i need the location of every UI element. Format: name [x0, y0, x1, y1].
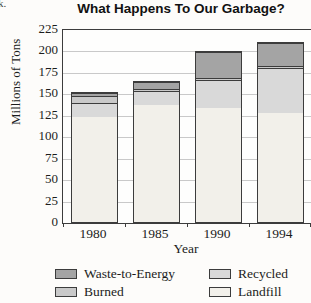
- bar-1994-segment-waste-to-energy: [258, 43, 303, 66]
- legend-item-landfill: Landfill: [209, 284, 288, 299]
- y-tick-label-50: 50: [18, 172, 58, 186]
- bar-1994-segment-landfill: [258, 113, 303, 222]
- y-tick-label-150: 150: [18, 86, 58, 100]
- legend-swatch-icon: [55, 269, 77, 279]
- bar-1994: [257, 42, 304, 223]
- legend-label: Burned: [84, 284, 124, 300]
- bar-1985: [133, 81, 180, 223]
- legend-item-recycled: Recycled: [209, 266, 288, 281]
- bar-1980: [71, 92, 118, 223]
- page-corner-artifact: k.: [0, 0, 6, 9]
- bar-1980-segment-recycled: [72, 103, 117, 117]
- y-tick-label-100: 100: [18, 129, 58, 143]
- y-tick-label-125: 125: [18, 108, 58, 122]
- x-tick-label-1985: 1985: [125, 226, 185, 242]
- y-tick-label-175: 175: [18, 65, 58, 79]
- legend-label: Waste-to-Energy: [84, 266, 175, 282]
- legend-item-waste-to-energy: Waste-to-Energy: [55, 266, 175, 281]
- legend-column: RecycledLandfill: [209, 266, 288, 299]
- bar-1994-segment-recycled: [258, 68, 303, 113]
- x-axis-tick: [310, 223, 311, 227]
- x-tick-label-1980: 1980: [63, 226, 123, 242]
- x-tick-label-1994: 1994: [249, 226, 309, 242]
- legend-label: Recycled: [238, 266, 288, 282]
- bar-1980-segment-burned: [72, 96, 117, 104]
- bar-1990-segment-recycled: [196, 80, 241, 108]
- y-tick-label-0: 0: [18, 215, 58, 229]
- bar-1985-segment-landfill: [134, 105, 179, 222]
- legend-item-burned: Burned: [55, 284, 175, 299]
- legend: Waste-to-EnergyBurnedRecycledLandfill: [55, 266, 305, 299]
- bar-1980-segment-landfill: [72, 117, 117, 222]
- x-tick-label-1990: 1990: [187, 226, 247, 242]
- legend-column: Waste-to-EnergyBurned: [55, 266, 175, 299]
- bar-1985-segment-waste-to-energy: [134, 82, 179, 89]
- legend-swatch-icon: [55, 287, 77, 297]
- plot-area: [62, 29, 311, 224]
- x-axis-title: Year: [126, 241, 246, 257]
- y-tick-label-225: 225: [18, 22, 58, 36]
- bar-1990: [195, 51, 242, 223]
- y-tick-label-25: 25: [18, 194, 58, 208]
- bar-1990-segment-waste-to-energy: [196, 52, 241, 78]
- bar-1985-segment-recycled: [134, 91, 179, 105]
- y-tick-label-75: 75: [18, 151, 58, 165]
- legend-swatch-icon: [209, 269, 231, 279]
- legend-label: Landfill: [238, 284, 282, 300]
- legend-swatch-icon: [209, 287, 231, 297]
- chart-title: What Happens To Our Garbage?: [50, 1, 311, 16]
- bar-1990-segment-landfill: [196, 108, 241, 222]
- y-tick-label-200: 200: [18, 43, 58, 57]
